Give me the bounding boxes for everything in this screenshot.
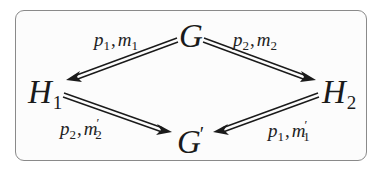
node-h2: H2	[322, 76, 356, 112]
node-h1: H1	[28, 76, 62, 112]
label-g-to-h2: p2,m2	[233, 30, 277, 52]
label-h1-to-gprime: p2,m′2	[60, 116, 102, 141]
node-g-prime: G′	[177, 124, 204, 159]
label-g-to-h1: p1,m1	[94, 30, 138, 52]
node-g: G	[179, 20, 203, 53]
label-h2-to-gprime: p1,m′1	[268, 118, 310, 143]
